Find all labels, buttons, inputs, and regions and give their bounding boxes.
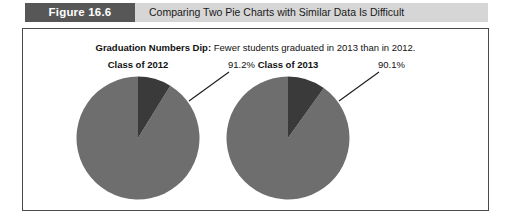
figure-caption-bar: Figure 16.6 Comparing Two Pie Charts wit… bbox=[25, 3, 488, 22]
pie-svg-2013 bbox=[226, 76, 350, 200]
pie-chart-2013: Class of 2013 90.1% bbox=[226, 59, 436, 209]
figure-subtitle: Graduation Numbers Dip: Fewer students g… bbox=[23, 42, 488, 53]
charts-row: Class of 2012 91.2% Class of 2013 bbox=[23, 59, 488, 209]
pie-chart-2012-graphic bbox=[76, 76, 200, 200]
figure-subtitle-rest: Fewer students graduated in 2013 than in… bbox=[211, 42, 415, 53]
pie-chart-2013-graphic bbox=[226, 76, 350, 200]
figure-number-label: Figure 16.6 bbox=[49, 7, 112, 19]
figure-number-block: Figure 16.6 bbox=[25, 3, 135, 22]
pie-chart-2013-value-label: 90.1% bbox=[378, 59, 405, 70]
figure-panel: Graduation Numbers Dip: Fewer students g… bbox=[22, 28, 489, 211]
pie-chart-2012-title: Class of 2012 bbox=[76, 59, 200, 70]
figure-title-block: Comparing Two Pie Charts with Similar Da… bbox=[135, 3, 488, 22]
pie-chart-2013-title: Class of 2013 bbox=[226, 59, 350, 70]
figure-title-text: Comparing Two Pie Charts with Similar Da… bbox=[149, 7, 404, 18]
figure-subtitle-lead: Graduation Numbers Dip: bbox=[96, 42, 212, 53]
pie-svg-2012 bbox=[76, 76, 200, 200]
